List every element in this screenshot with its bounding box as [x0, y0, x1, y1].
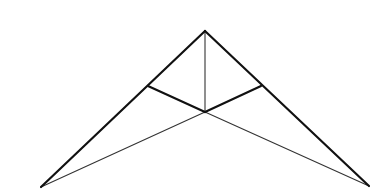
left-bottom-chord-line — [41, 112, 205, 187]
right-rafter-line — [205, 31, 369, 186]
right-web-line — [205, 86, 261, 112]
truss-members — [41, 31, 369, 187]
left-web-line — [148, 86, 205, 112]
truss-diagram — [0, 0, 383, 192]
right-bottom-chord-line — [205, 112, 369, 186]
left-rafter-line — [41, 31, 205, 187]
